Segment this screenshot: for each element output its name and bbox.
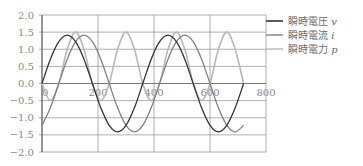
x-tick-label: 600 [200, 87, 219, 98]
legend-item-current: 瞬時電流 i [266, 29, 334, 41]
y-tick-label: −1.0 [10, 112, 34, 123]
y-tick-label: −1.5 [10, 129, 34, 140]
x-tick-label: 800 [256, 87, 275, 98]
y-tick-label: −2.0 [10, 147, 34, 158]
data-series [42, 32, 244, 132]
y-tick-label: 0.0 [18, 78, 34, 89]
legend-label-power: 瞬時電力 p [288, 43, 338, 55]
y-tick-label: 2.0 [18, 10, 34, 21]
legend: 瞬時電圧 v 瞬時電流 i 瞬時電力 p [266, 15, 338, 55]
y-tick-label: 1.5 [18, 27, 34, 38]
legend-item-voltage: 瞬時電圧 v [266, 15, 337, 27]
line-chart: 2.01.51.00.50.0−0.5−1.0−1.5−2.0 02004006… [0, 0, 363, 166]
y-tick-label: 1.0 [18, 44, 34, 55]
y-tick-label: 0.5 [18, 61, 34, 72]
legend-label-current: 瞬時電流 i [288, 29, 334, 41]
legend-item-power: 瞬時電力 p [266, 43, 338, 55]
y-tick-label: −0.5 [10, 95, 34, 106]
legend-label-voltage: 瞬時電圧 v [288, 15, 337, 27]
y-axis-tick-labels: 2.01.51.00.50.0−0.5−1.0−1.5−2.0 [10, 10, 34, 158]
